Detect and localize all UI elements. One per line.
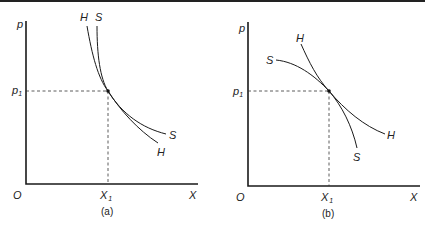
panel-a-s-curve [97,26,166,134]
diagram-canvas: H S S H p p1 O X1 X (a) H S H S p p1 O X… [0,0,425,232]
panel-b-h-top-label: H [296,32,304,44]
panel-a-x1-label: X1 [99,189,112,202]
panel-b-h-bottom-label: H [387,129,395,141]
panel-b-axes [248,22,420,186]
panel-b-h-curve [301,44,385,134]
panel-a-h-top-label: H [80,11,88,23]
panel-b-s-top-label: S [266,54,274,66]
panel-a-y-axis-label: p [16,18,23,30]
panel-a-h-bottom-label: H [157,146,165,158]
panel-a-s-bottom-label: S [169,129,177,141]
panel-a: H S S H p p1 O X1 X (a) [11,11,198,217]
panel-a-axes [26,21,198,184]
panel-b: H S H S p p1 O X1 X (b) [232,22,420,219]
panel-a-p1-label: p1 [11,84,22,97]
panel-b-origin-label: O [236,191,245,203]
panel-b-y-axis-label: p [238,22,245,34]
panel-a-tangency-point [106,89,110,93]
panel-b-x-axis-label: X [409,191,418,203]
panel-b-x1-label: X1 [320,191,333,204]
panel-b-s-bottom-label: S [353,151,361,163]
panel-b-caption: (b) [322,208,334,219]
panel-a-s-top-label: S [95,11,103,23]
panel-a-caption: (a) [101,206,113,217]
panel-a-origin-label: O [13,189,22,201]
panel-b-p1-label: p1 [232,85,243,98]
panel-a-x-axis-label: X [188,189,197,201]
panel-b-intersection-point [327,89,331,93]
